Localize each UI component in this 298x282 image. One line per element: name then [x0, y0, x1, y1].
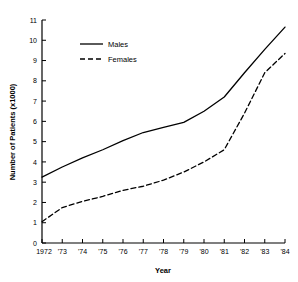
chart-canvas: 01234567891011 1972'73'74'75'76'77'78'79… [0, 0, 298, 282]
y-tick-label: 4 [33, 159, 37, 166]
y-tick-label: 10 [29, 37, 37, 44]
y-tick-label: 5 [33, 138, 37, 145]
y-tick-label: 1 [33, 219, 37, 226]
x-tick-label: '75 [98, 248, 107, 255]
legend-label-females: Females [108, 55, 137, 64]
y-tick-label: 7 [33, 98, 37, 105]
x-tick-label: '83 [260, 248, 269, 255]
y-tick-label: 6 [33, 118, 37, 125]
legend-label-males: Males [108, 40, 128, 49]
x-tick-label: '82 [240, 248, 249, 255]
x-tick-label: '76 [118, 248, 127, 255]
y-tick-label: 0 [33, 240, 37, 247]
x-tick-label: '74 [78, 248, 87, 255]
y-tick-label: 3 [33, 179, 37, 186]
x-tick-label: '80 [199, 248, 208, 255]
y-tick-label: 2 [33, 199, 37, 206]
line-chart: 01234567891011 1972'73'74'75'76'77'78'79… [0, 0, 298, 282]
chart-background [0, 0, 298, 282]
y-tick-label: 11 [30, 17, 37, 24]
x-tick-label: '81 [220, 248, 229, 255]
x-tick-label: '77 [139, 248, 148, 255]
x-tick-label: '79 [179, 248, 188, 255]
x-tick-label: '73 [58, 248, 67, 255]
x-tick-label: '84 [280, 248, 289, 255]
x-tick-label: '78 [159, 248, 168, 255]
y-tick-label: 9 [33, 57, 37, 64]
x-axis-title: Year [155, 266, 171, 275]
y-tick-label: 8 [33, 77, 37, 84]
y-axis-title: Number of Patients (x1000) [8, 83, 17, 180]
x-tick-label: 1972 [36, 248, 52, 255]
